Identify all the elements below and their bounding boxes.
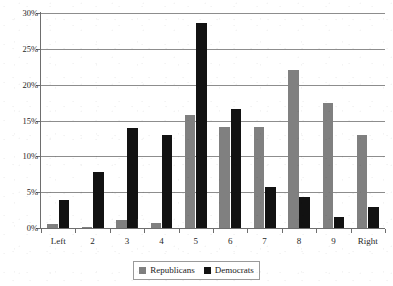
y-axis-label: 20% [0, 81, 38, 90]
x-axis-label-left: Left [51, 236, 66, 246]
x-axis-label-9: 9 [331, 236, 336, 246]
bar-democrats-4 [162, 135, 173, 228]
x-tick-mark [179, 229, 180, 233]
x-axis-label-5: 5 [194, 236, 199, 246]
x-tick-mark [144, 229, 145, 233]
x-tick-mark [213, 229, 214, 233]
x-tick-mark [41, 229, 42, 233]
y-axis-label: 5% [0, 188, 38, 197]
bar-democrats-3 [127, 128, 138, 228]
x-tick-mark [351, 229, 352, 233]
legend-item-democrats: Democrats [204, 266, 254, 275]
chart-legend: Republicans Democrats [133, 261, 260, 280]
bar-republicans-7 [254, 127, 265, 228]
x-tick-mark [282, 229, 283, 233]
x-axis-label-right: Right [358, 236, 378, 246]
bar-democrats-6 [231, 109, 242, 228]
x-axis-label-8: 8 [297, 236, 302, 246]
x-axis-label-3: 3 [125, 236, 130, 246]
bar-republicans-8 [288, 70, 299, 228]
bar-democrats-8 [299, 197, 310, 228]
bar-democrats-5 [196, 23, 207, 228]
bar-republicans-4 [151, 223, 162, 228]
x-axis-label-4: 4 [159, 236, 164, 246]
bar-republicans-3 [116, 220, 127, 228]
y-axis-label: 15% [0, 117, 38, 126]
y-axis-label: 30% [0, 9, 38, 18]
legend-label-republicans: Republicans [150, 266, 195, 275]
scan-artifact-speck [137, 219, 138, 228]
x-axis-label-2: 2 [90, 236, 95, 246]
y-axis-label: 0% [0, 224, 38, 233]
x-tick-mark [247, 229, 248, 233]
bar-republicans-left [47, 224, 58, 228]
y-axis-label: 25% [0, 45, 38, 54]
bar-democrats-2 [93, 172, 104, 228]
bar-democrats-right [368, 207, 379, 228]
x-tick-mark [385, 229, 386, 233]
bar-democrats-7 [265, 187, 276, 228]
bar-republicans-9 [323, 103, 334, 228]
x-tick-mark [110, 229, 111, 233]
bar-democrats-9 [334, 217, 345, 228]
gridline-30% [41, 13, 385, 14]
x-axis-label-6: 6 [228, 236, 233, 246]
bar-republicans-2 [82, 227, 93, 228]
bar-republicans-right [357, 135, 368, 228]
x-axis-label-7: 7 [262, 236, 267, 246]
x-tick-mark [316, 229, 317, 233]
y-axis-label: 10% [0, 152, 38, 161]
x-tick-mark [75, 229, 76, 233]
bar-democrats-left [59, 200, 70, 228]
gridline-15% [41, 121, 385, 122]
bar-chart: 0%5%10%15%20%25%30% Left23456789Right Re… [0, 0, 393, 286]
gridline-25% [41, 49, 385, 50]
bar-republicans-5 [185, 115, 196, 228]
legend-swatch-republicans-icon [139, 267, 146, 274]
gridline-10% [41, 156, 385, 157]
plot-area [41, 13, 385, 228]
bar-republicans-6 [219, 127, 230, 228]
gridline-20% [41, 85, 385, 86]
legend-item-republicans: Republicans [139, 266, 195, 275]
legend-swatch-democrats-icon [204, 267, 211, 274]
legend-label-democrats: Democrats [215, 266, 254, 275]
